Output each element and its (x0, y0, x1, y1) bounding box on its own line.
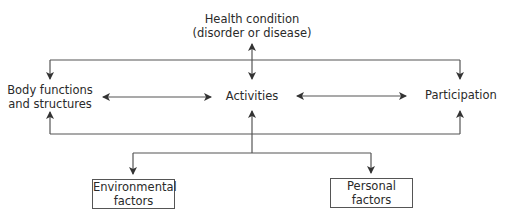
participation-label: Participation (418, 88, 504, 102)
environmental-factors-box: Environmental factors (92, 179, 175, 209)
environmental-line1: Environmental (93, 180, 174, 194)
health-condition-line2: (disorder or disease) (192, 26, 312, 40)
activities-label: Activities (212, 89, 292, 103)
body-functions-line1: Body functions (0, 83, 100, 97)
personal-factors-box: Personal factors (330, 178, 413, 208)
participation-node: Participation (418, 88, 504, 102)
environmental-line2: factors (93, 194, 174, 208)
personal-line1: Personal (331, 179, 412, 193)
body-functions-line2: and structures (0, 97, 100, 111)
body-functions-node: Body functions and structures (0, 83, 100, 111)
health-condition-line1: Health condition (192, 12, 312, 26)
activities-node: Activities (212, 89, 292, 103)
personal-line2: factors (331, 193, 412, 207)
health-condition-node: Health condition (disorder or disease) (192, 12, 312, 40)
